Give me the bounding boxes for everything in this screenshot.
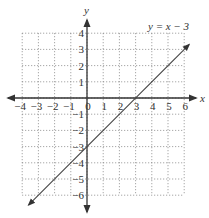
y-tick-label: 4: [79, 27, 85, 39]
y-tick-label: −2: [72, 124, 84, 136]
y-tick-label: 2: [79, 60, 85, 72]
y-tick-label: −5: [72, 173, 84, 185]
x-tick-label: 6: [182, 100, 188, 112]
y-tick-label: 3: [79, 43, 85, 55]
x-tick-label: −4: [14, 100, 26, 112]
y-tick-label: −4: [72, 157, 84, 169]
x-axis-label: x: [199, 92, 205, 104]
x-tick-label: 2: [118, 100, 124, 112]
x-tick-label: 5: [166, 100, 172, 112]
function-line: [29, 45, 189, 205]
x-tick-label: 1: [101, 100, 107, 112]
equation-label: y = x − 3: [147, 20, 190, 32]
x-tick-label: 0: [85, 100, 91, 112]
y-tick-label: −6: [72, 189, 84, 201]
grid: [22, 33, 184, 195]
x-tick-label: −3: [31, 100, 43, 112]
y-axis-label: y: [83, 4, 89, 16]
x-tick-label: 3: [134, 100, 140, 112]
x-tick-label: 4: [150, 100, 156, 112]
y-tick-label: 1: [79, 76, 85, 88]
y-tick-label: −1: [72, 108, 84, 120]
x-tick-label: −2: [47, 100, 59, 112]
graph: xy−4−3−2−101234564321−1−2−3−4−5−6y = x −…: [0, 0, 209, 218]
